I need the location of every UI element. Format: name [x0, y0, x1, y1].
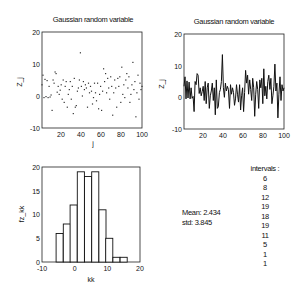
scatter-point	[97, 83, 98, 84]
line-y-ticks: 20 10 0 -10	[172, 31, 182, 133]
scatter-point	[90, 86, 91, 87]
scatter-point	[123, 84, 124, 85]
scatter-point	[133, 89, 134, 90]
scatter-point	[80, 52, 81, 53]
scatter-point	[85, 84, 86, 85]
scatter-point	[114, 79, 115, 80]
x-tick-label: 20	[136, 265, 144, 272]
histogram-bar	[70, 205, 77, 262]
scatter-point	[71, 99, 72, 100]
histogram-x-ticks: -10 0 10 20	[37, 265, 144, 272]
scatter-point	[104, 81, 105, 82]
scatter-point	[140, 89, 141, 90]
scatter-point	[112, 115, 113, 116]
scatter-point	[129, 102, 130, 103]
scatter-point	[110, 76, 111, 77]
x-tick-label: 60	[97, 131, 105, 138]
line-plot: Gaussian random variable 20 10 0 -10 20 …	[158, 17, 290, 139]
scatter-point	[103, 68, 104, 69]
scatter-point	[125, 79, 126, 80]
scatter-point	[55, 71, 56, 72]
scatter-point	[76, 105, 77, 106]
y-tick-label: 0	[178, 94, 182, 101]
scatter-point	[100, 86, 101, 87]
scatter-plot: Gaussian random variable 20 10 0 -10 20 …	[16, 15, 148, 148]
scatter-point	[102, 91, 103, 92]
line-y-label: Z_j	[158, 79, 166, 89]
histogram-x-label: kk	[88, 276, 96, 283]
scatter-point	[139, 83, 140, 84]
scatter-point	[130, 94, 131, 95]
y-tick-label: 20	[174, 31, 182, 38]
scatter-point	[51, 94, 52, 95]
scatter-point	[56, 73, 57, 74]
histogram-bar	[120, 257, 127, 262]
histogram-y-label: fz_kk	[18, 205, 26, 222]
scatter-title: Gaussian random variable	[53, 15, 133, 24]
scatter-point	[48, 97, 49, 98]
scatter-point	[84, 89, 85, 90]
scatter-point	[122, 94, 123, 95]
scatter-x-label: j	[91, 140, 94, 148]
histogram-bar	[56, 234, 63, 263]
y-tick-label: 5	[36, 235, 40, 242]
scatter-point	[109, 99, 110, 100]
x-tick-label: 20	[199, 132, 207, 139]
scatter-point	[67, 107, 68, 108]
y-tick-label: 15	[32, 188, 40, 195]
scatter-point	[126, 73, 127, 74]
y-tick-label: -10	[172, 126, 182, 133]
histogram-plot: 20 15 10 5 0 -10 0 10 20 kk fz_kk	[18, 164, 144, 283]
scatter-y-ticks: 20 10 0 -10	[30, 29, 40, 132]
y-tick-label: 20	[32, 29, 40, 36]
scatter-point	[94, 83, 95, 84]
scatter-point	[135, 116, 136, 117]
scatter-point	[91, 91, 92, 92]
x-tick-label: 0	[73, 265, 77, 272]
x-tick-label: 40	[77, 131, 85, 138]
scatter-point	[78, 87, 79, 88]
scatter-point	[131, 84, 132, 85]
x-tick-label: 40	[219, 132, 227, 139]
scatter-point	[117, 78, 118, 79]
interval-count: 11	[245, 231, 285, 241]
scatter-point	[59, 94, 60, 95]
scatter-point	[121, 67, 122, 68]
x-tick-label: 10	[103, 265, 111, 272]
scatter-point	[92, 103, 93, 104]
scatter-point	[75, 107, 76, 108]
y-tick-label: 20	[32, 164, 40, 171]
scatter-point	[83, 81, 84, 82]
scatter-point	[120, 102, 121, 103]
scatter-point	[41, 84, 42, 85]
scatter-point	[42, 75, 43, 76]
scatter-point	[115, 87, 116, 88]
scatter-point	[138, 99, 139, 100]
scatter-point	[66, 81, 67, 82]
scatter-point	[50, 96, 51, 97]
scatter-point	[63, 79, 64, 80]
scatter-point	[141, 86, 142, 87]
scatter-point	[136, 92, 137, 93]
scatter-point	[65, 86, 66, 87]
histogram-bar	[85, 177, 92, 263]
scatter-x-ticks: 20 40 60 80 100	[57, 131, 148, 138]
scatter-point	[105, 73, 106, 74]
scatter-point	[45, 96, 46, 97]
interval-count: 6	[245, 174, 285, 184]
line-x-ticks: 20 40 60 80 100	[199, 132, 290, 139]
scatter-point	[95, 92, 96, 93]
scatter-point	[54, 83, 55, 84]
scatter-point	[89, 92, 90, 93]
histogram-bar	[113, 257, 120, 262]
y-tick-label: 10	[32, 211, 40, 218]
intervals-list: intervals : 6 8 12 19 18 19 11 5 1 1	[245, 164, 285, 269]
histogram-bar	[99, 210, 106, 262]
interval-count: 12	[245, 193, 285, 203]
scatter-point	[118, 86, 119, 87]
scatter-point	[87, 107, 88, 108]
y-tick-label: 10	[32, 61, 40, 68]
interval-count: 5	[245, 240, 285, 250]
scatter-point	[132, 62, 133, 63]
x-tick-label: 20	[57, 131, 65, 138]
